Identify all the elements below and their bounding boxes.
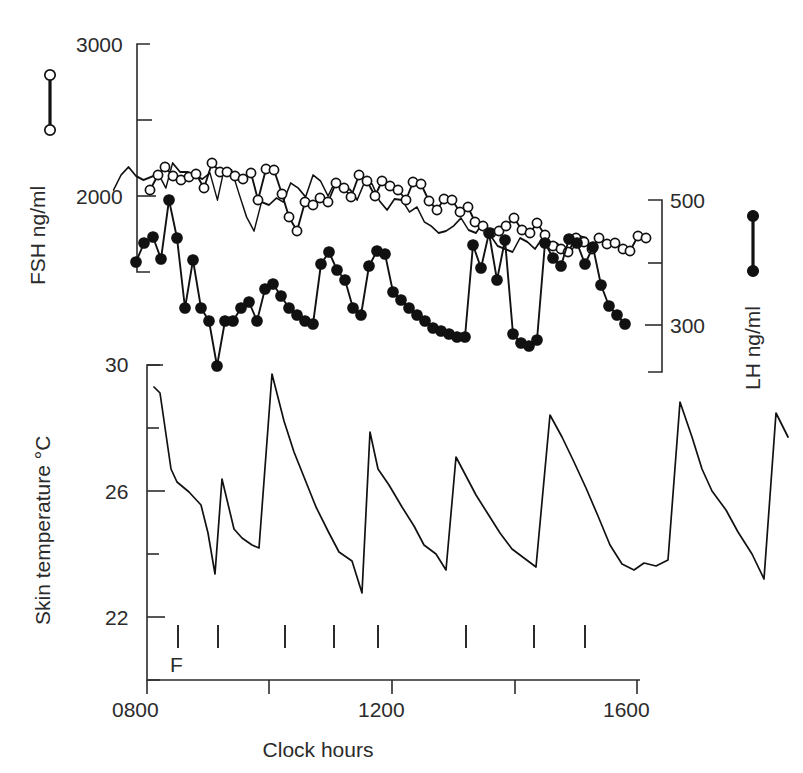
lh-tick-500: 500 [670, 189, 705, 212]
x-tick-1600: 1600 [603, 698, 650, 721]
lh-legend-symbol [748, 211, 759, 277]
feeding-marks [178, 625, 585, 648]
temp-tick-26: 26 [105, 480, 128, 503]
temperature-axis-label: Skin temperature °C [31, 436, 54, 625]
x-tick-1200: 1200 [358, 698, 405, 721]
hormone-temperature-figure: FSH ng/ml 3000 2000 500 300 LH ng/ml [0, 0, 803, 773]
x-tick-0800: 0800 [112, 698, 159, 721]
x-axis [147, 680, 640, 694]
fsh-tick-2000: 2000 [76, 185, 123, 208]
figure-container: FSH ng/ml 3000 2000 500 300 LH ng/ml [0, 0, 803, 773]
lh-axis-label: LH ng/ml [741, 306, 764, 390]
lh-axis [645, 200, 662, 372]
feed-marker-label: F [170, 653, 183, 676]
lh-tick-300: 300 [670, 314, 705, 337]
fsh-axis-label: FSH ng/ml [26, 186, 49, 285]
x-axis-label: Clock hours [263, 738, 374, 761]
skin-temperature-series [154, 374, 788, 593]
temp-tick-30: 30 [105, 353, 128, 376]
temp-tick-22: 22 [105, 606, 128, 629]
fsh-legend-symbol [45, 70, 55, 135]
lh-series [131, 195, 630, 371]
fsh-tick-3000: 3000 [76, 33, 123, 56]
